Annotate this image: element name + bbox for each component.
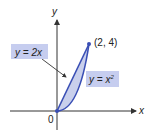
pointer-arrow — [42, 59, 66, 77]
line-label: y = 2x — [14, 47, 43, 58]
y-axis-label: y — [51, 6, 58, 17]
origin-label: 0 — [48, 114, 54, 125]
intersection-point — [87, 42, 91, 46]
x-axis-label: x — [138, 105, 145, 116]
region-diagram: y = 2x y = x2 (2, 4) x y 0 — [0, 0, 149, 137]
point-label: (2, 4) — [94, 37, 117, 48]
origin-point — [55, 109, 59, 113]
